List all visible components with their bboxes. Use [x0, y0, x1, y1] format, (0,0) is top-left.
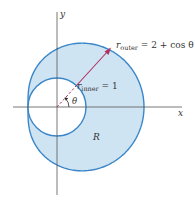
y-axis-label: y — [59, 9, 66, 19]
theta-label: θ — [72, 96, 77, 106]
outer-subscript: outer — [120, 44, 139, 52]
region-label: R — [92, 132, 100, 142]
outer-equation: = 2 + cos θ — [138, 40, 194, 50]
outer-curve-label: router = 2 + cos θ — [116, 40, 194, 52]
x-axis-label: x — [178, 108, 183, 118]
inner-subscript: inner — [81, 85, 99, 93]
inner-equation: = 1 — [99, 81, 118, 91]
polar-region-diagram: y x router = 2 + cos θ rinner = 1 θ R — [0, 0, 195, 203]
